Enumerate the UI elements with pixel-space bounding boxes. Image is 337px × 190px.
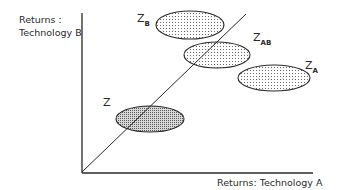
region-zb-label: ZB [137, 12, 150, 28]
region-z-ellipse [116, 106, 184, 132]
x-axis-label: Returns: Technology A [217, 177, 323, 188]
region-z-label: Z [103, 96, 111, 109]
y-axis-label-line2: Technology B [18, 27, 82, 38]
returns-diagram: Returns : Technology B Returns: Technolo… [0, 0, 337, 190]
y-axis-label-line1: Returns : [19, 14, 62, 25]
region-za-ellipse [238, 65, 310, 91]
diagonal-line [82, 14, 246, 172]
region-zab-label: ZAB [253, 31, 271, 47]
region-zb-ellipse [156, 11, 224, 39]
